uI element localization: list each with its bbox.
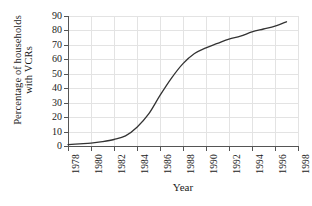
y-tick-label: 50 xyxy=(52,69,62,79)
y-tick-label: 30 xyxy=(52,98,62,108)
x-tick-mark xyxy=(137,146,138,151)
plot-area: 0102030405060708090 19781980198219841986… xyxy=(68,16,298,146)
x-tick-label: 1988 xyxy=(187,154,197,174)
y-tick-label: 80 xyxy=(52,25,62,35)
x-tick-label: 1996 xyxy=(279,154,289,174)
x-tick-mark xyxy=(160,146,161,151)
x-tick-mark xyxy=(252,146,253,151)
y-tick-label: 40 xyxy=(52,83,62,93)
y-tick-label: 60 xyxy=(52,54,62,64)
y-tick-label: 90 xyxy=(52,11,62,21)
x-tick-mark xyxy=(68,146,69,151)
y-tick-label: 70 xyxy=(52,40,62,50)
x-tick-label: 1994 xyxy=(256,154,266,174)
y-tick-label: 10 xyxy=(52,127,62,137)
y-tick-label: 20 xyxy=(52,112,62,122)
y-axis-title-line2: with VCRs xyxy=(23,46,34,94)
x-tick-label: 1986 xyxy=(164,154,174,174)
x-tick-mark xyxy=(114,146,115,151)
x-tick-label: 1984 xyxy=(141,154,151,174)
x-tick-label: 1998 xyxy=(302,154,312,174)
x-tick-mark xyxy=(91,146,92,151)
x-tick-mark xyxy=(298,146,299,151)
x-tick-label: 1982 xyxy=(118,154,128,174)
x-tick-label: 1980 xyxy=(95,154,105,174)
y-axis-title: Percentage of households with VCRs xyxy=(2,0,44,150)
x-tick-label: 1978 xyxy=(72,154,82,174)
x-tick-mark xyxy=(229,146,230,151)
x-tick-mark xyxy=(183,146,184,151)
x-tick-label: 1990 xyxy=(210,154,220,174)
x-tick-label: 1992 xyxy=(233,154,243,174)
x-tick-mark xyxy=(206,146,207,151)
x-axis-title: Year xyxy=(68,182,298,193)
gridline-vertical xyxy=(298,16,299,146)
chart-figure: Percentage of households with VCRs 01020… xyxy=(0,0,312,206)
y-tick-label: 0 xyxy=(57,141,62,151)
data-line-series xyxy=(68,16,298,146)
y-axis-title-line1: Percentage of households xyxy=(12,15,23,125)
x-tick-mark xyxy=(275,146,276,151)
